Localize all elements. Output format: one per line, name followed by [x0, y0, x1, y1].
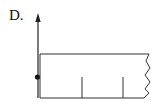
break-line — [144, 54, 150, 98]
point-dot — [35, 74, 40, 79]
beam-diagram — [0, 0, 153, 105]
arrow-up-icon — [35, 13, 40, 22]
